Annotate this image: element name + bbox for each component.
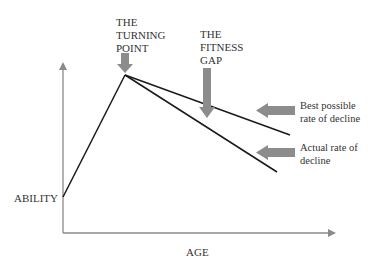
actual-line-1: Actual rate of — [300, 141, 358, 154]
actual-decline-line — [125, 75, 277, 172]
y-axis-arrowhead-icon — [59, 62, 67, 70]
actual-arrow-icon — [256, 145, 295, 160]
fitness-gap-label: THE FITNESS GAP — [200, 28, 243, 67]
fitness-gap-arrow-icon — [199, 68, 215, 118]
turning-point-line-2: TURNING — [116, 29, 166, 42]
y-axis-label: ABILITY — [14, 192, 58, 205]
x-axis — [63, 229, 336, 237]
actual-line-2: decline — [300, 154, 358, 167]
turning-point-line-3: POINT — [116, 42, 166, 55]
x-axis-arrowhead-icon — [328, 229, 336, 237]
fitness-gap-line-2: FITNESS — [200, 41, 243, 54]
best-possible-label: Best possible rate of decline — [300, 99, 360, 125]
x-axis-label: AGE — [186, 246, 209, 259]
fitness-gap-line-3: GAP — [200, 54, 243, 67]
best-possible-line-1: Best possible — [300, 99, 360, 112]
actual-label: Actual rate of decline — [300, 141, 358, 167]
diagram-canvas — [0, 0, 372, 263]
turning-point-label: THE TURNING POINT — [116, 16, 166, 55]
rise-line — [63, 75, 125, 197]
best-possible-line-2: rate of decline — [300, 112, 360, 125]
turning-point-line-1: THE — [116, 16, 166, 29]
y-axis — [59, 62, 67, 233]
best-possible-arrow-icon — [256, 103, 295, 118]
fitness-gap-line-1: THE — [200, 28, 243, 41]
turning-point-arrow-icon — [117, 53, 133, 73]
